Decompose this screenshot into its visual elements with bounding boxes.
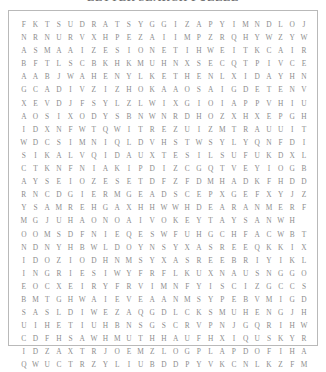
grid-letter[interactable]: Y: [263, 254, 275, 267]
grid-letter[interactable]: D: [286, 136, 298, 149]
grid-letter[interactable]: D: [240, 175, 252, 188]
grid-letter[interactable]: Q: [251, 241, 263, 254]
grid-letter[interactable]: U: [228, 149, 240, 162]
grid-letter[interactable]: X: [146, 149, 158, 162]
grid-letter[interactable]: A: [228, 267, 240, 280]
grid-letter[interactable]: V: [123, 293, 135, 306]
grid-letter[interactable]: E: [158, 44, 170, 57]
grid-letter[interactable]: I: [275, 293, 287, 306]
grid-letter[interactable]: X: [251, 110, 263, 123]
grid-letter[interactable]: O: [275, 162, 287, 175]
grid-letter[interactable]: I: [53, 110, 65, 123]
grid-letter[interactable]: F: [181, 280, 193, 293]
grid-letter[interactable]: L: [53, 306, 65, 319]
grid-letter[interactable]: V: [76, 31, 88, 44]
grid-letter[interactable]: I: [228, 18, 240, 31]
grid-letter[interactable]: N: [251, 201, 263, 214]
grid-letter[interactable]: H: [65, 214, 77, 227]
grid-letter[interactable]: I: [170, 31, 182, 44]
grid-letter[interactable]: E: [123, 345, 135, 358]
grid-letter[interactable]: Z: [123, 97, 135, 110]
grid-letter[interactable]: S: [111, 44, 123, 57]
grid-letter[interactable]: C: [228, 358, 240, 371]
grid-letter[interactable]: F: [41, 332, 53, 345]
grid-letter[interactable]: F: [76, 97, 88, 110]
grid-letter[interactable]: H: [100, 319, 112, 332]
grid-letter[interactable]: T: [41, 57, 53, 70]
grid-letter[interactable]: T: [135, 175, 147, 188]
grid-letter[interactable]: Z: [251, 280, 263, 293]
grid-letter[interactable]: Z: [275, 358, 287, 371]
grid-letter[interactable]: K: [111, 162, 123, 175]
grid-letter[interactable]: O: [41, 254, 53, 267]
grid-letter[interactable]: G: [275, 306, 287, 319]
grid-letter[interactable]: D: [193, 175, 205, 188]
grid-letter[interactable]: I: [65, 175, 77, 188]
grid-letter[interactable]: J: [286, 306, 298, 319]
grid-letter[interactable]: E: [275, 201, 287, 214]
grid-letter[interactable]: X: [181, 241, 193, 254]
grid-letter[interactable]: T: [41, 293, 53, 306]
grid-letter[interactable]: J: [286, 188, 298, 201]
grid-letter[interactable]: S: [123, 18, 135, 31]
grid-letter[interactable]: I: [18, 123, 30, 136]
grid-letter[interactable]: R: [76, 358, 88, 371]
grid-letter[interactable]: I: [100, 267, 112, 280]
grid-letter[interactable]: I: [123, 162, 135, 175]
grid-letter[interactable]: O: [123, 241, 135, 254]
grid-letter[interactable]: A: [205, 83, 217, 96]
grid-letter[interactable]: Z: [111, 306, 123, 319]
grid-letter[interactable]: D: [146, 162, 158, 175]
grid-letter[interactable]: G: [146, 18, 158, 31]
grid-letter[interactable]: Q: [240, 332, 252, 345]
grid-letter[interactable]: Q: [88, 149, 100, 162]
grid-letter[interactable]: Y: [123, 267, 135, 280]
grid-letter[interactable]: Y: [100, 97, 112, 110]
grid-letter[interactable]: B: [76, 241, 88, 254]
grid-letter[interactable]: S: [135, 254, 147, 267]
grid-letter[interactable]: C: [30, 83, 42, 96]
grid-letter[interactable]: A: [65, 44, 77, 57]
grid-letter[interactable]: L: [275, 18, 287, 31]
grid-letter[interactable]: S: [216, 280, 228, 293]
grid-letter[interactable]: I: [216, 97, 228, 110]
grid-letter[interactable]: R: [216, 241, 228, 254]
grid-letter[interactable]: S: [111, 110, 123, 123]
grid-letter[interactable]: R: [88, 18, 100, 31]
grid-letter[interactable]: D: [181, 110, 193, 123]
grid-letter[interactable]: G: [228, 188, 240, 201]
grid-letter[interactable]: T: [76, 345, 88, 358]
grid-letter[interactable]: P: [193, 345, 205, 358]
grid-letter[interactable]: Y: [123, 70, 135, 83]
grid-letter[interactable]: I: [158, 31, 170, 44]
grid-letter[interactable]: E: [181, 214, 193, 227]
grid-letter[interactable]: S: [298, 280, 310, 293]
grid-letter[interactable]: Z: [170, 175, 182, 188]
grid-letter[interactable]: G: [181, 97, 193, 110]
grid-letter[interactable]: Y: [193, 214, 205, 227]
grid-letter[interactable]: R: [88, 345, 100, 358]
grid-letter[interactable]: D: [193, 201, 205, 214]
grid-letter[interactable]: C: [216, 228, 228, 241]
grid-letter[interactable]: S: [88, 97, 100, 110]
grid-letter[interactable]: H: [146, 332, 158, 345]
grid-letter[interactable]: Q: [251, 319, 263, 332]
grid-letter[interactable]: W: [298, 31, 310, 44]
grid-letter[interactable]: N: [123, 319, 135, 332]
grid-letter[interactable]: H: [193, 228, 205, 241]
grid-letter[interactable]: T: [298, 228, 310, 241]
grid-letter[interactable]: I: [18, 345, 30, 358]
grid-letter[interactable]: I: [286, 241, 298, 254]
grid-letter[interactable]: I: [193, 97, 205, 110]
grid-letter[interactable]: F: [263, 175, 275, 188]
grid-letter[interactable]: E: [53, 175, 65, 188]
grid-letter[interactable]: W: [146, 110, 158, 123]
grid-letter[interactable]: J: [41, 214, 53, 227]
grid-letter[interactable]: S: [41, 175, 53, 188]
grid-letter[interactable]: Q: [205, 162, 217, 175]
grid-letter[interactable]: A: [18, 44, 30, 57]
grid-letter[interactable]: C: [41, 136, 53, 149]
grid-letter[interactable]: V: [76, 83, 88, 96]
grid-letter[interactable]: N: [53, 123, 65, 136]
grid-letter[interactable]: A: [18, 70, 30, 83]
